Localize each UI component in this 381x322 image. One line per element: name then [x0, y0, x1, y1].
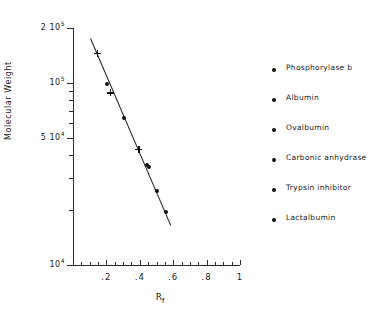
x-axis-tick	[123, 262, 124, 265]
y-axis-tick	[69, 123, 73, 124]
legend-item-label: Carbonic anhydrase	[286, 153, 367, 162]
data-point-dot	[155, 189, 159, 193]
legend-item-label: Ovalbumin	[286, 123, 329, 132]
legend-item: Lactalbumin	[268, 212, 380, 242]
legend-item: Albumin	[268, 92, 380, 122]
y-axis-tick-label: 2 105	[9, 24, 65, 32]
legend-marker-dot-icon	[272, 188, 276, 192]
x-axis-tick-label: .6	[158, 273, 188, 282]
y-axis-tick	[67, 83, 73, 84]
x-axis-tick	[148, 262, 149, 265]
y-axis-tick	[67, 265, 73, 266]
legend-item: Ovalbumin	[268, 122, 380, 152]
x-axis-tick	[140, 260, 141, 265]
y-tick-exponent: 5	[61, 75, 65, 82]
y-tick-exponent: 4	[61, 130, 65, 137]
x-axis-line	[73, 265, 240, 266]
x-axis-tick	[190, 262, 191, 265]
y-tick-exponent: 4	[61, 257, 65, 264]
protein-legend: Phosphorylase bAlbuminOvalbuminCarbonic …	[268, 62, 380, 242]
data-point-plus	[135, 146, 142, 153]
x-axis-tick	[182, 262, 183, 265]
y-axis-tick-label: 105	[9, 79, 65, 87]
x-axis-tick	[157, 262, 158, 265]
x-axis-tick	[173, 260, 174, 265]
x-axis-title: Rf	[140, 292, 180, 302]
legend-item: Trypsin inhibitor	[268, 182, 380, 212]
legend-item-label: Lactalbumin	[286, 213, 335, 222]
x-axis-tick	[73, 262, 74, 265]
data-point-dot	[164, 210, 168, 214]
data-point-plus	[94, 50, 101, 57]
y-axis-title: Molecular Weight	[4, 30, 13, 140]
y-axis-line	[73, 28, 74, 265]
legend-marker-dot-icon	[272, 158, 276, 162]
x-axis-tick	[115, 262, 116, 265]
legend-marker-dot-icon	[272, 128, 276, 132]
y-axis-tick	[69, 155, 73, 156]
y-axis-tick	[69, 111, 73, 112]
x-axis-tick	[215, 262, 216, 265]
x-axis-tick	[240, 260, 241, 265]
data-point-dot	[147, 165, 151, 169]
legend-marker-dot-icon	[272, 98, 276, 102]
x-axis-tick-label: .8	[192, 273, 222, 282]
legend-item: Phosphorylase b	[268, 62, 380, 92]
x-axis-tick	[198, 262, 199, 265]
x-axis-title-subscript: f	[162, 297, 164, 305]
x-axis-tick-label: .2	[91, 273, 121, 282]
y-axis-tick	[69, 100, 73, 101]
x-axis-tick	[207, 260, 208, 265]
x-axis-tick	[81, 262, 82, 265]
x-axis-tick	[223, 262, 224, 265]
legend-item: Carbonic anhydrase	[268, 152, 380, 182]
x-axis-tick	[131, 262, 132, 265]
legend-item-label: Phosphorylase b	[286, 63, 352, 72]
y-axis-tick	[69, 210, 73, 211]
legend-marker-dot-icon	[272, 68, 276, 72]
y-axis-tick	[69, 178, 73, 179]
data-point-dot	[122, 116, 126, 120]
y-tick-mantissa: 10	[49, 78, 60, 87]
x-axis-tick	[106, 260, 107, 265]
x-axis-tick-label: .4	[125, 273, 155, 282]
x-axis-tick	[165, 262, 166, 265]
y-tick-mantissa: 2 10	[41, 23, 61, 32]
x-axis-tick	[232, 262, 233, 265]
legend-marker-dot-icon	[272, 218, 276, 222]
legend-item-label: Trypsin inhibitor	[286, 183, 351, 192]
x-axis-tick	[90, 262, 91, 265]
y-axis-tick-label: 5 104	[9, 134, 65, 142]
y-tick-mantissa: 10	[49, 260, 60, 269]
molecular-weight-standard-curve-figure: 2 1051055 104104 .2.4.6.81 Molecular Wei…	[0, 0, 381, 322]
y-tick-exponent: 5	[61, 20, 65, 27]
y-axis-tick	[67, 138, 73, 139]
x-axis-tick-label: 1	[225, 273, 255, 282]
legend-item-label: Albumin	[286, 93, 319, 102]
data-point-dot	[105, 82, 109, 86]
y-axis-tick	[69, 91, 73, 92]
y-tick-mantissa: 5 10	[41, 133, 61, 142]
x-axis-tick	[98, 262, 99, 265]
y-axis-tick	[67, 28, 73, 29]
data-point-plus	[107, 89, 114, 96]
y-axis-tick-label: 104	[9, 261, 65, 269]
